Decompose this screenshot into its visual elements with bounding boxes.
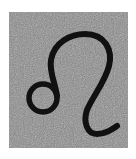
leo-zodiac-icon — [9, 12, 128, 148]
noise-texture-tile — [9, 12, 128, 148]
